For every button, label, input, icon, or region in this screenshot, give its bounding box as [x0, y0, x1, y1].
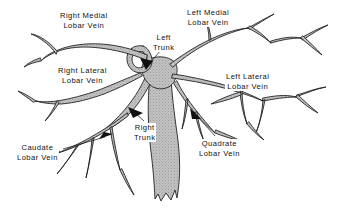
label-right-trunk: Right Trunk: [133, 123, 156, 142]
label-line-1: Left Lateral: [226, 72, 269, 82]
label-line-2: Lobar Vein: [187, 18, 229, 28]
label-line-1: Right Lateral: [58, 66, 107, 76]
label-quadrate-lobar-vein: Quadrate Lobar Vein: [198, 139, 241, 158]
label-caudate-lobar-vein: Caudate Lobar Vein: [16, 143, 59, 162]
label-line-2: Lobar Vein: [58, 76, 107, 86]
label-line-2: Lobar Vein: [199, 149, 240, 159]
label-right-medial-lobar-vein: Right Medial Lobar Vein: [59, 11, 109, 30]
label-line-1: Right Medial: [60, 11, 108, 21]
label-line-1: Left: [153, 33, 174, 43]
label-line-2: Trunk: [134, 133, 155, 143]
label-line-1: Caudate: [17, 143, 58, 153]
hepatic-vein-diagram: [0, 0, 347, 208]
label-right-lateral-lobar-vein: Right Lateral Lobar Vein: [57, 66, 108, 85]
label-line-2: Lobar Vein: [60, 21, 108, 31]
label-line-1: Left Medial: [187, 8, 229, 18]
label-left-trunk: Left Trunk: [152, 33, 175, 52]
label-left-medial-lobar-vein: Left Medial Lobar Vein: [186, 8, 230, 27]
label-line-1: Quadrate: [199, 139, 240, 149]
label-line-2: Lobar Vein: [226, 82, 269, 92]
label-left-lateral-lobar-vein: Left Lateral Lobar Vein: [225, 72, 270, 91]
label-line-2: Lobar Vein: [17, 153, 58, 163]
label-line-2: Trunk: [153, 43, 174, 53]
label-line-1: Right: [134, 123, 155, 133]
